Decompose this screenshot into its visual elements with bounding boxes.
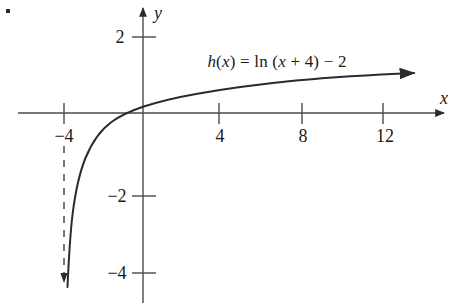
x-tick-label-4: 4	[216, 127, 225, 145]
graph-canvas	[0, 0, 458, 307]
y-axis-label: y	[154, 4, 162, 22]
logarithmic-function-graph: −4 4 8 12 2 −2 −4 y x h(x) = ln (x + 4) …	[0, 0, 458, 307]
equation-arg-rest: + 4) − 2	[286, 52, 347, 71]
function-curve	[68, 73, 415, 287]
x-tick-label-neg4: −4	[54, 127, 73, 145]
x-tick-label-12: 12	[376, 127, 394, 145]
x-axis-label: x	[440, 89, 448, 107]
y-tick-label-2: 2	[116, 28, 125, 46]
x-tick-label-8: 8	[299, 127, 308, 145]
equation-fn-name: h	[207, 52, 216, 71]
function-equation-label: h(x) = ln (x + 4) − 2	[207, 53, 346, 70]
y-tick-label-neg4: −4	[107, 264, 126, 282]
equation-equals-ln: = ln (	[236, 52, 279, 71]
y-tick-label-neg2: −2	[107, 187, 126, 205]
equation-arg-variable: x	[278, 52, 286, 71]
